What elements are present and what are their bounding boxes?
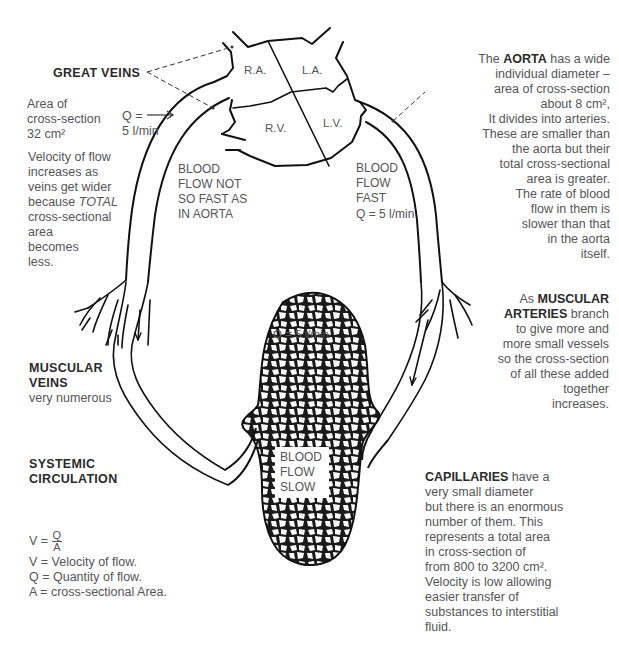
text-line: represents a total area [425, 530, 563, 545]
text-line: BLOOD [178, 162, 247, 177]
heart [214, 28, 366, 166]
great-veins-heading: GREAT VEINS [53, 66, 140, 81]
text-fragment: has a wide [547, 52, 610, 66]
text-line: SO FAST AS [178, 192, 247, 207]
q-value: 5 l/min [122, 124, 159, 139]
text-line: Velocity of flow [28, 150, 118, 165]
text-fragment: because [28, 195, 79, 209]
text-line: area [28, 225, 118, 240]
label-right-ventricle: R.V. [265, 122, 286, 134]
q-veins-text: Q = 5 l/min [122, 109, 159, 139]
text-line: number of them. This [425, 515, 563, 530]
capillaries-text: CAPILLARIES have a very small diameter b… [425, 470, 563, 635]
text-line: the aorta but their [478, 142, 610, 157]
text-line: fluid. [425, 620, 563, 635]
text-line: cross-sectional [28, 210, 118, 225]
text-line: slower than that [478, 217, 610, 232]
text-fragment: branch [567, 307, 609, 321]
text-line: Q = 5 l/min [356, 207, 414, 222]
text-line: in the aorta [478, 232, 610, 247]
text-line: It divides into arteries. [478, 112, 610, 127]
formula-lhs: V = [29, 534, 48, 548]
capillaries-heading: CAPILLARIES [425, 470, 508, 484]
text-line: As MUSCULAR [498, 292, 609, 307]
text-line: FLOW [356, 176, 414, 191]
formula-definition: V = Velocity of flow. [29, 555, 167, 570]
veins-area-line: Area of [27, 97, 101, 112]
text-line: about 8 cm², [478, 97, 610, 112]
formula-definition: A = cross-sectional Area. [29, 585, 167, 600]
q-capillaries-label: Q = 5 l/min [273, 327, 329, 342]
text-line: veins get wider [28, 180, 118, 195]
heading-line: SYSTEMIC [29, 457, 117, 472]
text-line: FAST [356, 191, 414, 206]
text-line: but there is an enormous [425, 500, 563, 515]
muscular-arteries-heading: ARTERIES [504, 307, 567, 321]
muscular-arteries-text: As MUSCULAR ARTERIES branch to give more… [498, 292, 609, 412]
text-line: The AORTA has a wide [478, 52, 610, 67]
text-line: together [498, 382, 609, 397]
muscular-veins-heading: MUSCULAR [29, 361, 112, 376]
text-line: from 800 to 3200 cm². [425, 560, 563, 575]
label-left-ventricle: L.V. [323, 117, 342, 129]
formula-equation: V = Q A [29, 530, 167, 553]
formula-denominator: A [52, 542, 63, 553]
text-line: increases as [28, 165, 118, 180]
text-fragment: As [519, 292, 537, 306]
text-line: SLOW [280, 480, 322, 495]
text-line: less. [28, 255, 118, 270]
text-line: IN AORTA [178, 207, 247, 222]
formula-block: V = Q A V = Velocity of flow. Q = Quanti… [29, 530, 167, 600]
veins-area-line: 32 cm² [27, 127, 101, 142]
text-line: The rate of blood [478, 187, 610, 202]
text-line: These are smaller than [478, 127, 610, 142]
text-line: increases. [498, 397, 609, 412]
aorta-text: The AORTA has a wide individual diameter… [478, 52, 610, 262]
flow-slow-label: BLOOD FLOW SLOW [280, 450, 322, 495]
text-line: ARTERIES branch [498, 307, 609, 322]
text-line: easier transfer of [425, 590, 563, 605]
text-emphasis: TOTAL [79, 195, 118, 209]
text-line: BLOOD [356, 161, 414, 176]
text-line: because TOTAL [28, 195, 118, 210]
q-label: Q = [122, 109, 159, 124]
veins-velocity-text: Velocity of flow increases as veins get … [28, 150, 118, 270]
muscular-veins-text: MUSCULAR VEINS very numerous [29, 361, 112, 406]
muscular-veins-heading: VEINS [29, 376, 112, 391]
text-line: very small diameter [425, 485, 563, 500]
text-line: FLOW NOT [178, 177, 247, 192]
text-line: becomes [28, 240, 118, 255]
text-line: total cross-sectional [478, 157, 610, 172]
text-line: area is greater. [478, 172, 610, 187]
formula-definition: Q = Quantity of flow. [29, 570, 167, 585]
label-right-atrium: R.A. [244, 64, 266, 76]
text-line: in cross-section of [425, 545, 563, 560]
veins-area-text: Area of cross-section 32 cm² [27, 97, 101, 142]
text-line: area of cross-section [478, 82, 610, 97]
text-line: more small vessels [498, 337, 609, 352]
text-line: to give more and [498, 322, 609, 337]
text-fragment: The [478, 52, 503, 66]
muscular-arteries-heading: MUSCULAR [537, 292, 609, 306]
muscular-arteries-branches [372, 282, 472, 440]
text-line: BLOOD [280, 450, 322, 465]
text-line: CAPILLARIES have a [425, 470, 563, 485]
veins-area-line: cross-section [27, 112, 101, 127]
muscular-veins-subtitle: very numerous [29, 391, 112, 406]
flow-not-fast-label: BLOOD FLOW NOT SO FAST AS IN AORTA [178, 162, 247, 222]
text-line: so the cross-section [498, 352, 609, 367]
heading-line: CIRCULATION [29, 472, 117, 487]
text-line: itself. [478, 247, 610, 262]
label-left-atrium: L.A. [302, 64, 322, 76]
text-line: of all these added [498, 367, 609, 382]
formula-fraction: Q A [52, 530, 63, 553]
aorta-heading: AORTA [503, 52, 547, 66]
text-line: individual diameter – [478, 67, 610, 82]
text-line: flow in them is [478, 202, 610, 217]
text-line: Velocity is low allowing [425, 575, 563, 590]
text-line: substances to interstitial [425, 605, 563, 620]
systemic-circulation-heading: SYSTEMIC CIRCULATION [29, 457, 117, 487]
text-line: FLOW [280, 465, 322, 480]
flow-fast-label: BLOOD FLOW FAST Q = 5 l/min [356, 161, 414, 222]
text-fragment: have a [508, 470, 549, 484]
